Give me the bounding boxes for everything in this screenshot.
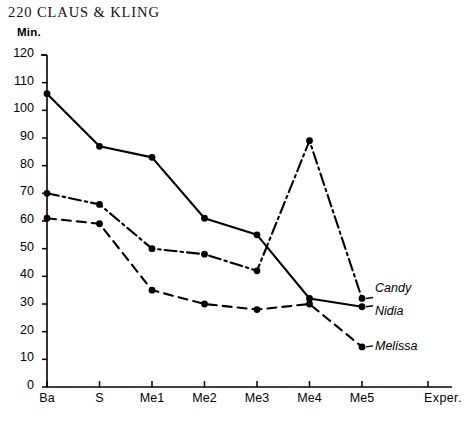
data-point-candy-Ba	[44, 190, 51, 197]
data-point-nidia-Ba	[44, 90, 51, 97]
y-tick-label-30: 30	[8, 295, 34, 309]
data-point-melissa-Me3	[254, 306, 261, 313]
series-label-candy: Candy	[375, 281, 411, 295]
y-tick-label-50: 50	[8, 240, 34, 254]
page-header: 220 CLAUS & KLING	[8, 4, 160, 21]
x-tick-label-Me4: Me4	[297, 391, 321, 405]
y-tick-label-60: 60	[8, 212, 34, 226]
x-tick-label-Me3: Me3	[245, 391, 269, 405]
y-tick-label-40: 40	[8, 267, 34, 281]
x-tick-label-S: S	[95, 391, 103, 405]
data-point-melissa-Me5	[359, 343, 366, 350]
data-point-candy-Me1	[149, 245, 156, 252]
y-tick-label-110: 110	[8, 74, 34, 88]
data-point-melissa-Me1	[149, 287, 156, 294]
y-tick-label-10: 10	[8, 350, 34, 364]
x-axis-title: Exper.	[424, 391, 462, 405]
series-label-melissa: Melissa	[375, 339, 417, 353]
x-tick-label-Me1: Me1	[140, 391, 164, 405]
figure-container: 220 CLAUS & KLING Min. 01020304050607080…	[0, 0, 469, 422]
series-line-nidia	[47, 94, 362, 307]
data-point-candy-Me4	[306, 137, 313, 144]
label-leader-candy	[366, 297, 373, 298]
series-label-nidia: Nidia	[375, 304, 404, 318]
data-point-nidia-Me3	[254, 231, 261, 238]
x-tick-label-Ba: Ba	[39, 391, 54, 405]
data-point-nidia-Me1	[149, 154, 156, 161]
data-point-melissa-Me4	[306, 301, 313, 308]
x-tick-label-Me2: Me2	[192, 391, 216, 405]
data-point-melissa-S	[96, 220, 103, 227]
y-tick-label-20: 20	[8, 323, 34, 337]
x-tick-label-Me5: Me5	[350, 391, 374, 405]
data-point-nidia-Me2	[201, 215, 208, 222]
y-tick-label-120: 120	[8, 46, 34, 60]
data-point-melissa-Me2	[201, 301, 208, 308]
y-tick-label-70: 70	[8, 184, 34, 198]
y-tick-label-80: 80	[8, 157, 34, 171]
label-leader-nidia	[366, 306, 373, 307]
y-tick-label-100: 100	[8, 101, 34, 115]
data-point-nidia-S	[96, 143, 103, 150]
data-point-candy-S	[96, 201, 103, 208]
series-line-melissa	[47, 218, 362, 347]
data-point-candy-Me5	[359, 295, 366, 302]
data-point-melissa-Ba	[44, 215, 51, 222]
data-point-candy-Me3	[254, 267, 261, 274]
y-axis-unit-label: Min.	[17, 26, 41, 38]
data-point-nidia-Me5	[359, 303, 366, 310]
label-leader-melissa	[366, 346, 373, 347]
y-tick-label-90: 90	[8, 129, 34, 143]
data-point-candy-Me2	[201, 251, 208, 258]
y-tick-label-0: 0	[8, 378, 34, 392]
line-chart-plot	[0, 0, 469, 422]
